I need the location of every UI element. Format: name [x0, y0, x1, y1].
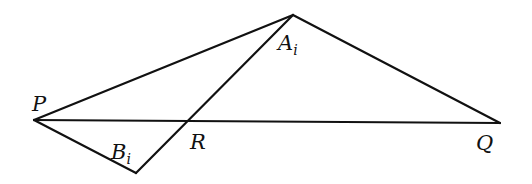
segment-BA [136, 15, 293, 173]
label-A-i: Ai [276, 31, 298, 58]
point-labels: P Ai Bi R Q [31, 31, 493, 167]
label-P: P [31, 92, 47, 116]
segment-PQ [34, 120, 500, 123]
geometry-diagram: P Ai Bi R Q [0, 0, 532, 184]
segments [34, 15, 500, 173]
segment-PA [34, 15, 293, 120]
label-Q: Q [476, 131, 493, 155]
label-B-i: Bi [110, 140, 131, 167]
segment-AQ [293, 15, 500, 123]
label-R: R [189, 130, 206, 154]
